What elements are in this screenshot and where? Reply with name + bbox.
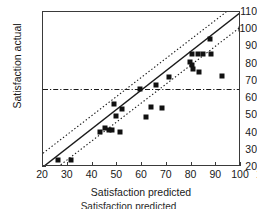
scatter-plot-figure: Satisfaction actual 20304050607080901001…: [0, 0, 257, 209]
upper-confidence-band: [43, 12, 226, 153]
data-point: [209, 52, 214, 57]
x-tick-mark: [92, 162, 93, 166]
data-point: [69, 158, 74, 163]
data-point: [167, 74, 172, 79]
data-point: [208, 36, 213, 41]
x-tick-mark: [67, 162, 68, 166]
data-point: [196, 70, 201, 75]
data-point: [143, 115, 148, 120]
x-tick-mark: [191, 162, 192, 166]
y-axis-title: Satisfaction actual: [11, 0, 23, 136]
figure-caption: Satisfaction predicted: [0, 201, 257, 209]
x-tick-mark: [42, 162, 43, 166]
x-tick-label: 100: [250, 169, 257, 180]
x-tick-mark: [166, 162, 167, 166]
data-point: [110, 127, 115, 132]
x-tick-mark: [116, 162, 117, 166]
data-point: [239, 27, 240, 32]
data-layer: [43, 12, 239, 165]
data-point: [189, 52, 194, 57]
x-tick-mark: [240, 162, 241, 166]
x-tick-mark: [215, 162, 216, 166]
data-point: [190, 66, 195, 71]
data-point: [153, 83, 158, 88]
data-point: [55, 158, 60, 163]
data-point: [111, 102, 116, 107]
data-point: [117, 129, 122, 134]
data-point: [159, 106, 164, 111]
data-point: [120, 107, 125, 112]
lower-confidence-band: [58, 27, 239, 165]
x-tick-mark: [141, 162, 142, 166]
plot-area: [42, 11, 240, 166]
data-point: [220, 73, 225, 78]
x-axis-title: Satisfaction predicted: [42, 186, 240, 198]
data-point: [200, 52, 205, 57]
data-point: [137, 86, 142, 91]
data-point: [114, 114, 119, 119]
data-point: [148, 104, 153, 109]
y-tick-mark: [42, 166, 46, 167]
